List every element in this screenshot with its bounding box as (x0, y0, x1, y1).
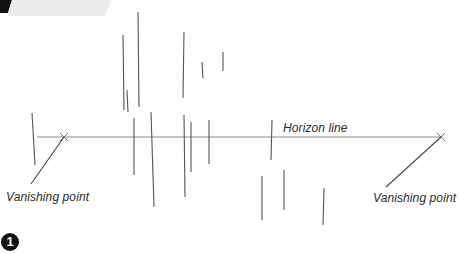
vanishing-point-left-label: Vanishing point (6, 190, 89, 204)
banner-grey (8, 0, 112, 16)
diagram-svg (0, 0, 460, 253)
vanishing-point-right-label: Vanishing point (373, 191, 456, 205)
perspective-diagram: Horizon line Vanishing point Vanishing p… (0, 0, 460, 253)
leader-line-left (31, 137, 64, 184)
step-number-badge: 1 (1, 233, 19, 251)
horizon-line-label: Horizon line (283, 121, 348, 135)
leader-line-right (386, 137, 441, 187)
